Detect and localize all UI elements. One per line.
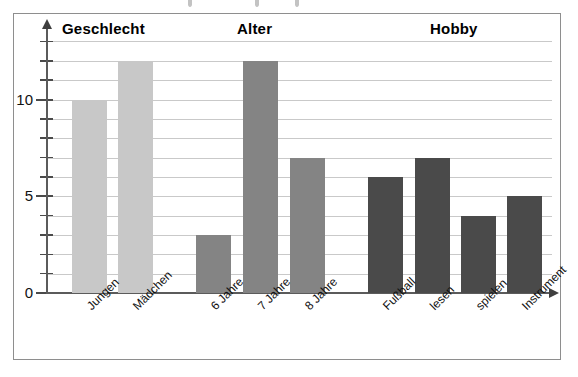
group-heading: Geschlecht <box>62 20 145 37</box>
group-heading: Hobby <box>430 20 478 37</box>
y-axis-tick-major <box>36 99 53 101</box>
y-axis-label: 0 <box>25 284 33 301</box>
bar[interactable] <box>243 61 278 293</box>
y-axis-label: 10 <box>16 91 33 108</box>
bar[interactable] <box>507 196 542 293</box>
chart-plot-area: 1050 JungenMädchen6 Jahre7 Jahre8 JahreF… <box>0 0 578 377</box>
chart-screenshot: 1050 JungenMädchen6 Jahre7 Jahre8 JahreF… <box>0 0 578 377</box>
bar[interactable] <box>72 100 107 294</box>
bar[interactable] <box>118 61 153 293</box>
y-axis-label: 5 <box>25 187 33 204</box>
bar[interactable] <box>290 158 325 293</box>
bar[interactable] <box>368 177 403 293</box>
gridline <box>47 41 552 42</box>
y-axis-line <box>46 27 48 294</box>
bar[interactable] <box>461 216 496 293</box>
arrow-up-icon <box>42 19 52 29</box>
bar[interactable] <box>415 158 450 293</box>
y-axis-tick-major <box>36 195 53 197</box>
group-heading: Alter <box>237 20 272 37</box>
